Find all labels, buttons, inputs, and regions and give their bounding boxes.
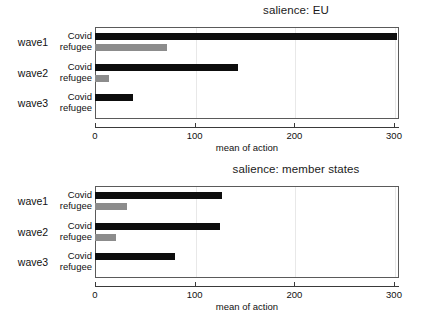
group-label-wave1: wave1: [4, 36, 62, 48]
x-tick-200: [294, 123, 295, 127]
x-tick-0: [95, 123, 96, 127]
plot-area-eu: [95, 27, 399, 119]
x-axis-title: mean of action: [216, 301, 278, 312]
group-label-wave3: wave3: [4, 256, 62, 268]
x-tick-label-100: 100: [187, 289, 203, 300]
gridline-200: [295, 28, 296, 118]
gridline-300: [395, 187, 396, 277]
chart-panel-member-states: salience: member states Covidrefugeewave…: [0, 159, 446, 317]
x-tick-label-0: 0: [92, 130, 97, 141]
chart-title-member-states: salience: member states: [0, 163, 446, 175]
x-tick-200: [294, 282, 295, 286]
chart-page: { "figure": { "background": "#ffffff", "…: [0, 0, 446, 317]
chart-title-eu: salience: EU: [0, 4, 446, 16]
gridline-100: [196, 28, 197, 118]
group-label-wave1: wave1: [4, 195, 62, 207]
gridline-200: [295, 187, 296, 277]
x-tick-label-300: 300: [386, 130, 402, 141]
x-tick-label-100: 100: [187, 130, 203, 141]
x-tick-label-300: 300: [386, 289, 402, 300]
x-axis-title: mean of action: [216, 142, 278, 153]
group-label-wave3: wave3: [4, 97, 62, 109]
bar-wave2-covid: [95, 223, 220, 230]
plot-area-member-states: [95, 186, 399, 278]
x-tick-label-0: 0: [92, 289, 97, 300]
x-tick-label-200: 200: [286, 289, 302, 300]
bar-wave2-refugee: [95, 75, 109, 82]
bar-wave1-covid: [95, 192, 222, 199]
bar-wave2-refugee: [95, 234, 116, 241]
x-tick-label-200: 200: [286, 130, 302, 141]
x-axis-line: [95, 286, 399, 287]
x-tick-100: [195, 123, 196, 127]
bar-wave1-refugee: [95, 44, 167, 51]
chart-panel-eu: salience: EU Covidrefugeewave1Covidrefug…: [0, 0, 446, 158]
x-tick-100: [195, 282, 196, 286]
group-label-wave2: wave2: [4, 226, 62, 238]
x-tick-300: [394, 123, 395, 127]
gridline-300: [395, 28, 396, 118]
bar-wave1-refugee: [95, 203, 127, 210]
bar-wave2-covid: [95, 64, 238, 71]
bar-wave3-covid: [95, 253, 175, 260]
group-label-wave2: wave2: [4, 67, 62, 79]
gridline-100: [196, 187, 197, 277]
x-tick-300: [394, 282, 395, 286]
bar-wave1-covid: [95, 33, 397, 40]
x-axis-line: [95, 127, 399, 128]
bar-wave3-covid: [95, 94, 133, 101]
x-tick-0: [95, 282, 96, 286]
